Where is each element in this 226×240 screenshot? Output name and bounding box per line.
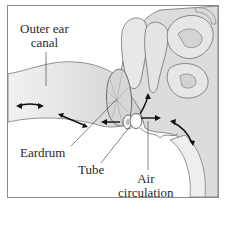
label-tube: Tube: [78, 163, 104, 177]
label-air-circulation: Air circulation: [118, 172, 174, 200]
label-outer-ear-canal: Outer ear canal: [20, 22, 69, 50]
label-eardrum: Eardrum: [20, 146, 65, 160]
label-air-circulation-line1: Air: [118, 172, 174, 186]
label-outer-ear-canal-line2: canal: [20, 36, 69, 50]
label-air-circulation-line2: circulation: [118, 186, 174, 200]
label-outer-ear-canal-line1: Outer ear: [20, 22, 69, 36]
ear-tube: [123, 114, 142, 130]
